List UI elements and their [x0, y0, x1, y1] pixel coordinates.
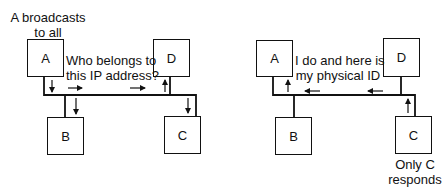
caption-line: to all	[0, 25, 96, 40]
node-b-right: B	[275, 117, 312, 155]
right-message: I do and here is my physical ID	[295, 53, 381, 83]
caption-line: Only C	[385, 157, 445, 172]
caption-line: A broadcasts	[0, 10, 96, 25]
node-a-right: A	[256, 40, 293, 77]
left-caption-top: A broadcasts to all	[0, 10, 96, 40]
node-label: D	[397, 50, 406, 65]
node-c-right: C	[395, 116, 432, 154]
node-label: C	[178, 128, 187, 143]
node-d-right: D	[383, 38, 420, 77]
node-label: D	[167, 51, 176, 66]
caption-line: responds	[385, 172, 445, 187]
message-line: my physical ID	[295, 68, 381, 83]
node-a-left: A	[27, 39, 64, 77]
message-line: I do and here is	[295, 53, 381, 68]
right-arrows	[288, 80, 408, 113]
node-label: C	[409, 128, 418, 143]
message-line: this IP address?	[66, 68, 152, 83]
node-label: B	[61, 129, 70, 144]
node-b-left: B	[47, 117, 84, 155]
message-line: Who belongs to	[66, 53, 152, 68]
node-label: A	[270, 51, 279, 66]
right-bus	[273, 77, 415, 117]
left-arrows	[52, 80, 188, 114]
left-message: Who belongs to this IP address?	[66, 53, 152, 83]
node-label: A	[41, 51, 50, 66]
node-label: B	[289, 129, 298, 144]
left-bus	[44, 77, 196, 117]
node-c-left: C	[164, 116, 201, 154]
right-caption-bottom: Only C responds	[385, 157, 445, 187]
